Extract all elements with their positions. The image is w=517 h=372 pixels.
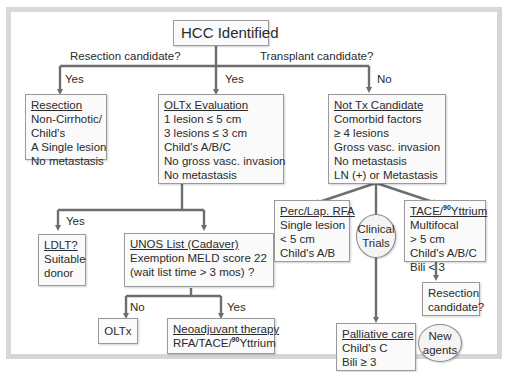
transplant-question-label: Transplant candidate?	[260, 49, 373, 63]
oltx-evaluation-title: OLTx Evaluation	[164, 98, 278, 112]
tace-yttrium-line: > 5 cm	[410, 232, 480, 246]
not-tx-candidate-line: Comorbid factors	[334, 112, 440, 126]
oltx-label: OLTx	[104, 325, 131, 337]
resection-candidate-node: Resection candidate?	[422, 282, 480, 316]
tace-yttrium-line: Child's A/B/C	[410, 246, 480, 260]
oltx-evaluation-line: 3 lesions ≤ 3 cm	[164, 126, 278, 140]
resection-node: Resection Non-Cirrhotic/ Child's A Singl…	[25, 94, 107, 160]
oltx-evaluation-line: No metastasis	[164, 168, 278, 182]
resection-line: Non-Cirrhotic/	[31, 112, 101, 126]
hcc-identified-node: HCC Identified	[173, 20, 269, 46]
palliative-care-line: Child's C	[342, 341, 410, 355]
transplant-no-label: No	[377, 72, 392, 86]
transplant-yes-label: Yes	[225, 72, 244, 86]
clinical-trials-node: Clinical Trials	[356, 214, 396, 258]
palliative-care-title: Palliative care	[342, 327, 410, 341]
tace-yttrium-node: TACE/90Yttrium Multifocal > 5 cm Child's…	[404, 200, 486, 262]
resection-line: A Single lesion	[31, 140, 101, 154]
neoadjuvant-line: RFA/TACE/90Yttrium	[173, 336, 269, 350]
palliative-care-line: Bili ≥ 3	[342, 355, 410, 369]
perc-lap-rfa-title: Perc/Lap. RFA	[280, 204, 344, 218]
resection-question-label: Resection candidate?	[70, 49, 181, 63]
resection-yes-label: Yes	[65, 72, 84, 86]
unos-list-line: Exemption MELD score 22	[130, 251, 268, 265]
not-tx-candidate-node: Not Tx Candidate Comorbid factors ≥ 4 le…	[328, 94, 446, 184]
resection-title: Resection	[31, 98, 101, 112]
clinical-trials-line: Clinical	[357, 222, 394, 236]
oltx-evaluation-line: No gross vasc. invasion	[164, 154, 278, 168]
not-tx-candidate-line: ≥ 4 lesions	[334, 126, 440, 140]
ldlt-line: donor	[44, 266, 80, 280]
resection-candidate-line: Resection	[428, 286, 474, 300]
not-tx-candidate-title: Not Tx Candidate	[334, 98, 440, 112]
neoadjuvant-title: Neoadjuvant therapy	[173, 322, 269, 336]
unos-list-node: UNOS List (Cadaver) Exemption MELD score…	[124, 233, 274, 287]
unos-yes-label: Yes	[227, 300, 246, 314]
perc-lap-rfa-line: Single lesion	[280, 218, 344, 232]
ldlt-line: Suitable	[44, 252, 80, 266]
neoadjuvant-therapy-node: Neoadjuvant therapy RFA/TACE/90Yttrium	[167, 318, 275, 354]
perc-lap-rfa-node: Perc/Lap. RFA Single lesion < 5 cm Child…	[274, 200, 350, 262]
resection-line: No metastasis	[31, 154, 101, 168]
resection-candidate-line: candidate?	[428, 300, 474, 314]
oltx-node: OLTx	[98, 318, 138, 344]
new-agents-line: agents	[423, 343, 458, 357]
tace-yttrium-line: Bili < 3	[410, 260, 480, 274]
oltx-evaluation-line: 1 lesion ≤ 5 cm	[164, 112, 278, 126]
clinical-trials-line: Trials	[362, 236, 390, 250]
ldlt-yes-label: Yes	[66, 214, 85, 228]
unos-list-line: (wait list time > 3 mos) ?	[130, 265, 268, 279]
resection-line: Child's	[31, 126, 101, 140]
perc-lap-rfa-line: < 5 cm	[280, 232, 344, 246]
oltx-evaluation-line: Child's A/B/C	[164, 140, 278, 154]
not-tx-candidate-line: Gross vasc. invasion	[334, 140, 440, 154]
oltx-evaluation-node: OLTx Evaluation 1 lesion ≤ 5 cm 3 lesion…	[158, 94, 284, 184]
ldlt-node: LDLT? Suitable donor	[38, 234, 86, 286]
perc-lap-rfa-line: Child's A/B	[280, 246, 344, 260]
hcc-identified-label: HCC Identified	[181, 24, 279, 41]
not-tx-candidate-line: LN (+) or Metastasis	[334, 168, 440, 182]
ldlt-title: LDLT?	[44, 238, 80, 252]
unos-no-label: No	[130, 300, 145, 314]
not-tx-candidate-line: No metastasis	[334, 154, 440, 168]
unos-list-title: UNOS List (Cadaver)	[130, 237, 268, 251]
new-agents-node: New agents	[418, 324, 462, 362]
tace-yttrium-title: TACE/90Yttrium	[410, 204, 480, 218]
tace-yttrium-line: Multifocal	[410, 218, 480, 232]
palliative-care-node: Palliative care Child's C Bili ≥ 3	[336, 323, 416, 371]
new-agents-line: New	[428, 329, 451, 343]
